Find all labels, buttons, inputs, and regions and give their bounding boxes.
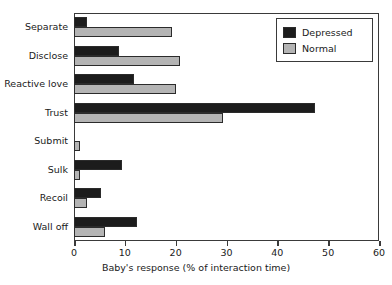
legend-label-normal: Normal <box>302 43 336 54</box>
x-tick-mark <box>328 241 330 246</box>
legend-swatch-normal <box>283 43 296 54</box>
x-tick-mark <box>379 241 381 246</box>
y-axis-label: Submit <box>0 135 68 146</box>
x-tick-label: 40 <box>271 247 283 259</box>
x-axis-ticks: 0102030405060 <box>74 241 379 261</box>
bar-normal <box>74 56 180 66</box>
y-axis-label: Reactive love <box>0 78 68 89</box>
bar-depressed <box>74 160 122 170</box>
x-tick-label: 10 <box>119 247 131 259</box>
bar-normal <box>74 84 176 94</box>
x-tick-mark <box>125 241 127 246</box>
legend-item: Depressed <box>283 24 366 40</box>
bar-depressed <box>74 46 119 56</box>
x-tick-mark <box>176 241 178 246</box>
y-axis-label: Disclose <box>0 50 68 61</box>
x-tick-label: 30 <box>220 247 232 259</box>
x-tick-mark <box>227 241 229 246</box>
bar-normal <box>74 170 80 180</box>
x-tick-label: 60 <box>373 247 385 259</box>
bar-chart: SeparateDiscloseReactive loveTrustSubmit… <box>0 0 392 285</box>
cropped-title-remnant <box>150 0 270 4</box>
y-axis-category-labels: SeparateDiscloseReactive loveTrustSubmit… <box>0 13 68 241</box>
y-axis-label: Separate <box>0 21 68 32</box>
y-axis-label: Wall off <box>0 221 68 232</box>
y-axis-label: Sulk <box>0 164 68 175</box>
x-tick-label: 20 <box>170 247 182 259</box>
bar-normal <box>74 141 80 151</box>
bar-normal <box>74 113 223 123</box>
y-axis-label: Trust <box>0 107 68 118</box>
legend-swatch-depressed <box>283 27 296 38</box>
y-axis-label: Recoil <box>0 192 68 203</box>
bar-group <box>74 99 379 128</box>
bar-group <box>74 70 379 99</box>
bar-group <box>74 127 379 156</box>
bar-depressed <box>74 188 101 198</box>
x-tick-mark <box>74 241 76 246</box>
bar-normal <box>74 198 87 208</box>
bar-depressed <box>74 103 315 113</box>
bar-group <box>74 213 379 242</box>
bar-group <box>74 156 379 185</box>
bar-depressed <box>74 74 134 84</box>
bar-normal <box>74 27 172 37</box>
x-tick-mark <box>277 241 279 246</box>
x-tick-label: 0 <box>71 247 77 259</box>
x-tick-label: 50 <box>322 247 334 259</box>
bar-depressed <box>74 217 137 227</box>
legend-label-depressed: Depressed <box>302 27 353 38</box>
legend-item: Normal <box>283 40 366 56</box>
bar-normal <box>74 227 105 237</box>
chart-legend: Depressed Normal <box>276 18 373 62</box>
bar-depressed <box>74 17 87 27</box>
x-axis-title: Baby's response (% of interaction time) <box>0 262 392 273</box>
bar-group <box>74 184 379 213</box>
